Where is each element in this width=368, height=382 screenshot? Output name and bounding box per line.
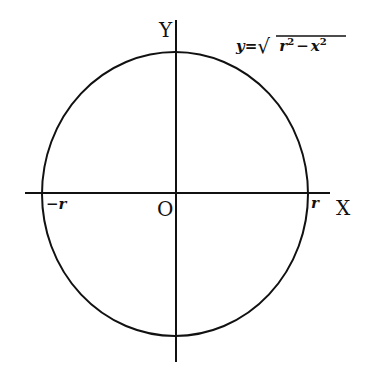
equation-lhs: y	[236, 37, 245, 55]
equation-equals: =	[245, 37, 258, 55]
radicand-r-exp: 2	[287, 36, 294, 47]
diagram-canvas	[0, 0, 368, 382]
tick-negative-r: −r	[46, 197, 66, 212]
equation: y=√ r2−x2	[236, 32, 327, 56]
radical-sign: √	[257, 34, 270, 58]
y-axis-label: Y	[159, 20, 172, 40]
radicand-r: r	[279, 37, 287, 55]
tick-positive-r: r	[311, 196, 319, 211]
x-axis-label: X	[336, 198, 350, 218]
origin-label: O	[157, 199, 173, 219]
equation-minus: −	[296, 37, 309, 55]
radicand-x: x	[311, 37, 320, 55]
radicand-x-exp: 2	[320, 36, 327, 47]
